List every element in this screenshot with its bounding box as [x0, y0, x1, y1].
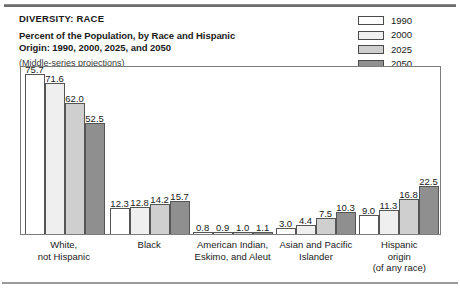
- bar-value-label: 7.5: [319, 208, 332, 219]
- bar-value-label: 10.3: [336, 202, 355, 213]
- x-axis-label-line: (of any race): [358, 262, 441, 274]
- legend-item: 2025: [358, 43, 444, 56]
- chart-title-line-1: Percent of the Population, by Race and H…: [19, 30, 235, 41]
- bar-value-label: 52.5: [85, 113, 104, 124]
- bar-value-label: 9.0: [362, 205, 375, 216]
- x-axis-label-line: Islander: [274, 251, 357, 263]
- top-divider-rule: [4, 4, 456, 7]
- bar: 3.0: [276, 228, 296, 234]
- x-axis-label-line: Asian and Pacific: [274, 239, 357, 251]
- bar: 7.5: [316, 218, 336, 234]
- plot-area: 75.771.662.052.512.312.814.215.70.80.91.…: [20, 66, 441, 235]
- bar-value-label: 3.0: [279, 218, 292, 229]
- bar-group: 9.011.316.822.5: [357, 67, 440, 234]
- bar: 22.5: [419, 186, 439, 234]
- legend-item: 1990: [358, 14, 444, 27]
- x-axis-label: Black: [108, 239, 191, 274]
- bar-group: 0.80.91.01.1: [191, 67, 274, 234]
- chart-kicker: DIVERSITY: RACE: [19, 13, 319, 25]
- bar-value-label: 16.8: [399, 189, 418, 200]
- legend-swatch-2025: [358, 45, 384, 54]
- legend-item: 2000: [358, 29, 444, 42]
- bar: 4.4: [296, 225, 316, 234]
- bar-value-label: 11.3: [380, 200, 398, 211]
- bar-groups: 75.771.662.052.512.312.814.215.70.80.91.…: [21, 67, 440, 234]
- bar-value-label: 4.4: [299, 215, 312, 226]
- x-axis-label-line: Black: [108, 239, 191, 251]
- bar: 1.0: [233, 232, 253, 234]
- bar-group: 75.771.662.052.5: [21, 67, 108, 234]
- chart-title-line-2: Origin: 1990, 2000, 2025, and 2050: [19, 42, 171, 53]
- bar-value-label: 14.2: [150, 194, 169, 205]
- bar: 0.8: [193, 232, 213, 234]
- chart-legend: 1990200020252050: [358, 14, 444, 72]
- x-axis-label: Hispanicorigin(of any race): [358, 239, 441, 274]
- x-axis-label-line: American Indian,: [191, 239, 274, 251]
- bar-value-label: 0.8: [196, 222, 209, 233]
- bar: 52.5: [85, 123, 105, 234]
- bar: 15.7: [170, 201, 190, 234]
- x-axis-label-line: Eskimo, and Aleut: [191, 251, 274, 263]
- bar-cluster: 0.80.91.01.1: [193, 67, 273, 234]
- bar: 10.3: [336, 212, 356, 234]
- bar: 12.3: [110, 208, 130, 234]
- x-axis-label-line: Hispanic: [358, 239, 441, 251]
- x-axis-label: American Indian,Eskimo, and Aleut: [191, 239, 274, 274]
- bar: 75.7: [25, 74, 45, 234]
- bottom-divider-rule: [2, 282, 458, 284]
- x-axis-label: Asian and PacificIslander: [274, 239, 357, 274]
- bar-value-label: 75.7: [25, 64, 44, 75]
- bar-value-label: 1.0: [236, 222, 249, 233]
- bar: 14.2: [150, 204, 170, 234]
- chart-title: Percent of the Population, by Race and H…: [19, 30, 319, 53]
- bar: 16.8: [399, 199, 419, 234]
- bar: 62.0: [65, 103, 85, 234]
- x-axis-label-line: origin: [358, 251, 441, 263]
- bar-group: 12.312.814.215.7: [108, 67, 191, 234]
- bar-value-label: 1.1: [256, 222, 269, 233]
- bar-value-label: 71.6: [45, 73, 64, 84]
- bar-value-label: 12.3: [110, 198, 129, 209]
- x-axis-label-line: White,: [20, 239, 108, 251]
- bar-value-label: 15.7: [170, 191, 189, 202]
- bar: 11.3: [379, 210, 399, 234]
- legend-label: 2000: [391, 30, 412, 40]
- bar-value-label: 62.0: [65, 93, 84, 104]
- bar-cluster: 75.771.662.052.5: [25, 67, 105, 234]
- bar: 12.8: [130, 207, 150, 234]
- bar-value-label: 22.5: [419, 176, 438, 187]
- bar-cluster: 3.04.47.510.3: [276, 67, 356, 234]
- chart-header: DIVERSITY: RACE Percent of the Populatio…: [19, 13, 319, 69]
- bar-cluster: 9.011.316.822.5: [359, 67, 439, 234]
- bar-value-label: 12.8: [130, 197, 149, 208]
- legend-label: 2025: [391, 45, 412, 55]
- bar-cluster: 12.312.814.215.7: [110, 67, 190, 234]
- bar: 1.1: [253, 232, 273, 234]
- x-axis-label-line: not Hispanic: [20, 251, 108, 263]
- legend-swatch-2000: [358, 31, 384, 40]
- bar-group: 3.04.47.510.3: [274, 67, 357, 234]
- legend-label: 1990: [391, 16, 412, 26]
- bar: 0.9: [213, 232, 233, 234]
- legend-swatch-1990: [358, 16, 384, 25]
- bar-value-label: 0.9: [216, 222, 229, 233]
- x-axis-labels: White,not HispanicBlackAmerican Indian,E…: [20, 239, 441, 274]
- bar: 71.6: [45, 83, 65, 234]
- bar: 9.0: [359, 215, 379, 234]
- x-axis-label: White,not Hispanic: [20, 239, 108, 274]
